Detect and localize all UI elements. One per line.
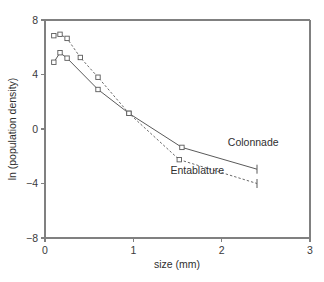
chart-tick-marks [41,20,310,242]
data-point-entablature-0 [52,33,56,37]
x-tick-label-2: 2 [219,244,225,256]
chart-axes [45,20,310,238]
data-point-entablature-2 [65,36,69,40]
data-point-entablature-5 [127,111,131,115]
series-label-entablature: Entablature [170,164,224,176]
y-tick-label-4: −8 [26,232,38,244]
y-axis-title: ln (population density) [6,78,18,181]
data-point-entablature-6 [177,157,181,161]
y-tick-label-0: 8 [32,14,38,26]
data-point-entablature-4 [96,75,100,79]
chart-series-labels: ColonnadeEntablature [170,136,278,176]
data-point-colonnade-5 [180,145,184,149]
population-density-vs-size-chart: 840−4−80123 ColonnadeEntablature size (m… [0,0,324,282]
chart-series-layer [54,34,257,183]
y-tick-label-1: 4 [32,68,38,80]
chart-container: 840−4−80123 ColonnadeEntablature size (m… [0,0,324,282]
x-tick-label-3: 3 [307,244,313,256]
data-point-entablature-3 [78,55,82,59]
series-line-colonnade [54,53,257,169]
data-point-colonnade-1 [58,51,62,55]
y-tick-label-3: −4 [26,177,38,189]
x-tick-label-1: 1 [130,244,136,256]
data-point-colonnade-2 [65,56,69,60]
series-label-colonnade: Colonnade [228,136,279,148]
chart-tick-labels: 840−4−80123 [26,14,313,256]
data-point-colonnade-3 [96,87,100,91]
series-line-entablature [54,34,257,183]
y-tick-label-2: 0 [32,123,38,135]
x-axis-title: size (mm) [154,258,200,270]
data-point-entablature-1 [58,32,62,36]
x-tick-label-0: 0 [42,244,48,256]
data-point-colonnade-0 [52,60,56,64]
chart-data-markers [52,32,257,188]
